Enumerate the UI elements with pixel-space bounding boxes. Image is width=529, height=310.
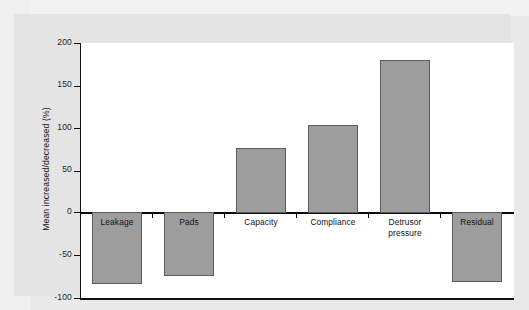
y-tick-label-minus50: -50 [32, 250, 72, 258]
x-tick-1 [152, 212, 153, 218]
y-tick-label-150: 150 [32, 80, 72, 88]
bar-label-detrusor-pressure: Detrusor pressure [371, 217, 439, 238]
bar-label-capacity: Capacity [229, 217, 293, 228]
y-tick-minus50: -50 [28, 250, 72, 260]
bar-label-residual: Residual [445, 217, 509, 228]
zero-baseline [80, 212, 514, 214]
bar-label-leakage: Leakage [87, 217, 147, 228]
x-tick-5 [440, 212, 441, 218]
y-tick-label-0: 0 [32, 207, 72, 215]
bar-detrusor-pressure[interactable] [380, 60, 430, 213]
y-tick-label-100: 100 [32, 123, 72, 131]
bar-capacity[interactable] [236, 148, 286, 213]
plot-area-background [80, 43, 514, 299]
y-tick-200: 200 [28, 38, 72, 48]
x-tick-2 [224, 212, 225, 218]
y-axis-line [80, 43, 81, 299]
y-tick-50: 50 [28, 165, 72, 175]
y-tick-label-50: 50 [32, 165, 72, 173]
figure-container: Mean increased/decreased (%) 200 150 100… [14, 14, 511, 296]
y-tick-label-minus100: -100 [32, 293, 72, 301]
bar-compliance[interactable] [308, 125, 358, 213]
x-tick-4 [368, 212, 369, 218]
y-tick-0: 0 [28, 207, 72, 217]
x-axis-bottom-line [80, 298, 514, 300]
bar-label-pads: Pads [159, 217, 219, 228]
y-tick-minus100: -100 [28, 293, 72, 303]
bar-label-compliance: Compliance [299, 217, 367, 228]
y-tick-100: 100 [28, 123, 72, 133]
y-tick-150: 150 [28, 80, 72, 90]
x-tick-3 [296, 212, 297, 218]
y-tick-label-200: 200 [32, 38, 72, 46]
